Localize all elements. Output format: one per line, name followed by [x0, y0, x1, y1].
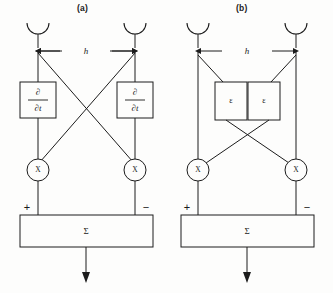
diagram-canvas: h ∂ ∂t ∂ ∂t — [0, 0, 333, 293]
panel-b-right-sensor — [285, 23, 307, 48]
panel-a-left-derivative-denominator: ∂t — [35, 103, 42, 113]
panel-a-output-arrow — [82, 247, 90, 283]
panel-b-plus-sign: + — [184, 201, 190, 213]
panel-a-left-sensor — [27, 23, 49, 48]
panel-a-minus-sign: − — [143, 201, 149, 213]
panel-a-right-derivative-numerator: ∂ — [133, 87, 137, 97]
panel-a-summation-box: Σ — [20, 215, 153, 247]
panel-b-left-multiplier: X — [187, 159, 209, 181]
panel-a-left-multiplier-symbol: X — [35, 165, 41, 174]
panel-b-summation-symbol: Σ — [244, 226, 249, 236]
panel-a-spacing-label: h — [84, 46, 89, 56]
panel-a-right-multiplier: X — [124, 159, 146, 181]
panel-b-minus-sign: − — [304, 201, 310, 213]
panel-b-right-epsilon-box: ε — [248, 82, 280, 120]
panel-b-left-sensor — [187, 23, 209, 48]
panel-b-cross-right-eps-to-left-mult — [206, 120, 269, 163]
panel-b-left-feed-diagonal — [198, 55, 223, 82]
panel-b-right-feed-diagonal — [271, 55, 296, 82]
panel-a-summation-symbol: Σ — [83, 226, 88, 236]
panel-a-left-derivative-box: ∂ ∂t — [20, 82, 56, 118]
panel-a-right-derivative-denominator: ∂t — [132, 103, 139, 113]
panel-b-spacing-label: h — [245, 46, 250, 56]
panel-label-b: (b) — [236, 3, 247, 13]
panel-b-spacing-arrow: h — [201, 44, 293, 57]
panel-b: h ε ε X — [181, 23, 314, 283]
panel-b-right-multiplier: X — [285, 159, 307, 181]
panel-b-left-multiplier-symbol: X — [195, 165, 201, 174]
panel-b-left-epsilon-box: ε — [215, 82, 247, 120]
panel-a-spacing-arrow: h — [41, 44, 132, 57]
panel-a-left-derivative-numerator: ∂ — [36, 87, 40, 97]
panel-b-right-multiplier-symbol: X — [293, 165, 299, 174]
panel-b-cross-left-eps-to-right-mult — [226, 120, 289, 163]
panel-a: h ∂ ∂t ∂ ∂t — [20, 23, 153, 283]
panel-a-left-multiplier: X — [27, 159, 49, 181]
panel-label-a: (a) — [77, 3, 88, 13]
panel-a-right-derivative-box: ∂ ∂t — [117, 82, 153, 118]
figure-container: (a) (b) — [0, 0, 333, 293]
panel-a-right-multiplier-symbol: X — [132, 165, 138, 174]
panel-b-summation-box: Σ — [181, 215, 314, 247]
panel-b-output-arrow — [243, 247, 251, 283]
panel-a-plus-sign: + — [24, 201, 30, 213]
panel-a-right-sensor — [124, 23, 146, 48]
